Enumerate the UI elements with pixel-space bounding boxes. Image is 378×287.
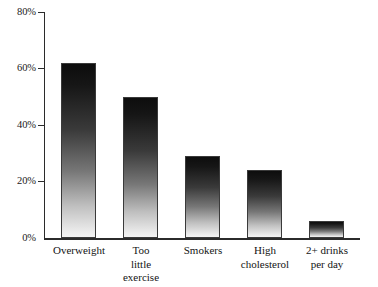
y-tick-label-80: 80% [0, 7, 36, 18]
y-tick-label-text: 40% [2, 120, 36, 131]
bar-smokers[interactable] [185, 156, 220, 238]
y-tick-mark-20 [38, 181, 45, 182]
bar-too-little-exercise[interactable] [123, 97, 158, 238]
x-label-line: exercise [98, 271, 184, 285]
y-tick-mark-80 [38, 12, 45, 13]
x-label-line: per day [284, 258, 370, 272]
y-tick-label-40: 40% [0, 120, 36, 131]
y-tick-mark-40 [38, 125, 45, 126]
bar-high-cholesterol[interactable] [247, 170, 282, 238]
y-tick-label-text: 20% [2, 176, 36, 187]
x-label-2-plus-drinks-per-day: 2+ drinksper day [284, 244, 370, 271]
y-tick-mark-60 [38, 68, 45, 69]
y-tick-label-20: 20% [0, 176, 36, 187]
y-tick-label-text: 0% [2, 233, 36, 244]
x-axis-line [44, 238, 360, 240]
x-label-line: little [98, 258, 184, 272]
y-tick-label-text: 60% [2, 63, 36, 74]
x-label-line: 2+ drinks [284, 244, 370, 258]
y-tick-label-text: 80% [2, 7, 36, 18]
bar-overweight[interactable] [61, 63, 96, 238]
y-tick-label-0: 0% [0, 233, 36, 244]
bar-2-plus-drinks-per-day[interactable] [309, 221, 344, 238]
y-tick-label-60: 60% [0, 63, 36, 74]
bar-chart: 80% 60% 40% 20% 0% Overweight Toolittlee… [0, 0, 378, 287]
